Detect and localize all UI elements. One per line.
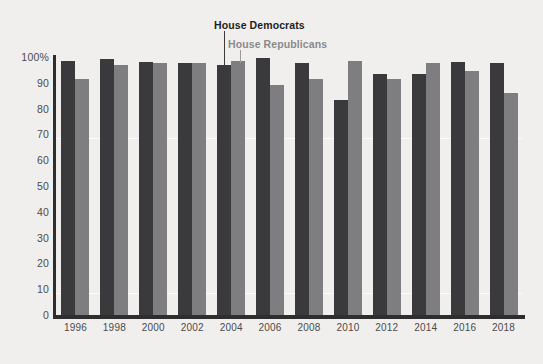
bar-group-2016: [445, 57, 484, 315]
bar-democrats-2002: [178, 63, 192, 315]
bar-group-2004: [212, 57, 251, 315]
x-tick-label-2004: 2004: [212, 322, 251, 333]
legend-label-democrats: House Democrats: [214, 19, 305, 31]
bar-democrats-2016: [451, 62, 465, 315]
bar-group-2010: [328, 57, 367, 315]
bar-republicans-2008: [309, 79, 323, 315]
y-tick-label-40: 40: [3, 206, 49, 218]
y-tick-label-60: 60: [3, 154, 49, 166]
bar-republicans-2010: [348, 61, 362, 315]
bar-republicans-1998: [114, 65, 128, 315]
bar-group-2008: [290, 57, 329, 315]
y-tick-label-80: 80: [3, 103, 49, 115]
bar-democrats-2010: [334, 100, 348, 315]
bar-democrats-2018: [490, 63, 504, 315]
bar-republicans-2018: [504, 93, 518, 315]
bar-republicans-2012: [387, 79, 401, 315]
bar-democrats-2008: [295, 63, 309, 315]
bar-group-1996: [56, 57, 95, 315]
x-axis-line: [53, 315, 525, 319]
x-tick-label-2014: 2014: [406, 322, 445, 333]
x-tick-label-2012: 2012: [367, 322, 406, 333]
bar-republicans-2006: [270, 85, 284, 315]
y-tick-label-100: 100%: [3, 51, 49, 63]
bar-republicans-1996: [75, 79, 89, 315]
bar-democrats-2014: [412, 74, 426, 315]
x-tick-label-2006: 2006: [251, 322, 290, 333]
y-tick-label-20: 20: [3, 257, 49, 269]
bar-republicans-2004: [231, 61, 245, 315]
bar-democrats-2012: [373, 74, 387, 315]
bar-republicans-2016: [465, 71, 479, 315]
bar-group-2018: [484, 57, 523, 315]
y-tick-label-70: 70: [3, 128, 49, 140]
x-tick-label-2010: 2010: [328, 322, 367, 333]
bar-group-1998: [95, 57, 134, 315]
x-tick-label-2002: 2002: [173, 322, 212, 333]
bar-republicans-2002: [192, 63, 206, 315]
bar-groups: [56, 57, 523, 315]
x-tick-label-2000: 2000: [134, 322, 173, 333]
bar-democrats-1996: [61, 61, 75, 315]
bar-democrats-2006: [256, 58, 270, 315]
bar-group-2006: [251, 57, 290, 315]
bar-democrats-1998: [100, 59, 114, 315]
y-tick-label-90: 90: [3, 77, 49, 89]
leader-line-democrats-icon: [224, 31, 225, 65]
bar-democrats-2004: [217, 65, 231, 315]
bar-group-2000: [134, 57, 173, 315]
bar-republicans-2000: [153, 63, 167, 315]
x-tick-label-2008: 2008: [290, 322, 329, 333]
x-axis-labels: 1996199820002002200420062008201020122014…: [56, 322, 523, 333]
y-tick-label-0: 0: [3, 309, 49, 321]
x-tick-label-1996: 1996: [56, 322, 95, 333]
x-tick-label-2016: 2016: [445, 322, 484, 333]
bar-democrats-2000: [139, 62, 153, 315]
bar-group-2014: [406, 57, 445, 315]
x-tick-label-2018: 2018: [484, 322, 523, 333]
y-tick-label-50: 50: [3, 180, 49, 192]
bar-group-2012: [367, 57, 406, 315]
leader-line-republicans-icon: [240, 50, 241, 63]
bar-group-2002: [173, 57, 212, 315]
y-tick-label-10: 10: [3, 283, 49, 295]
y-tick-label-30: 30: [3, 232, 49, 244]
legend-label-republicans: House Republicans: [228, 38, 327, 50]
bar-republicans-2014: [426, 63, 440, 315]
x-tick-label-1998: 1998: [95, 322, 134, 333]
bar-chart: 0102030405060708090100% 1996199820002002…: [0, 0, 543, 364]
y-axis-labels: 0102030405060708090100%: [0, 0, 49, 364]
